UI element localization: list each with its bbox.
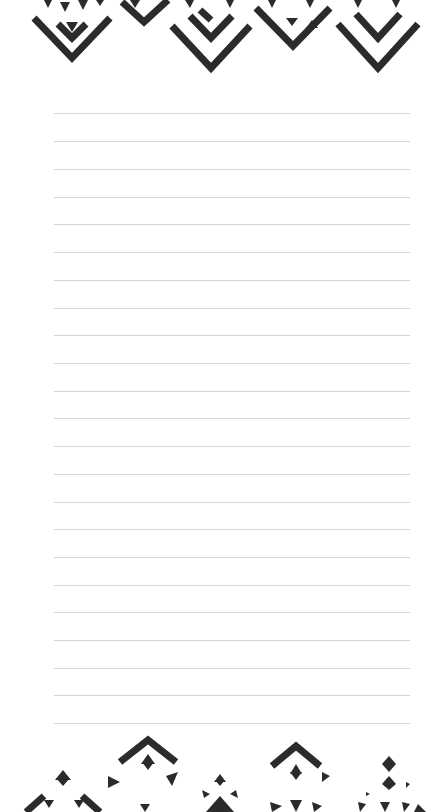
geometric-diamond-icon [0,732,445,812]
ruled-line [54,446,410,447]
ruled-line [54,668,410,669]
ruled-line [54,280,410,281]
ruled-line [54,640,410,641]
ruled-line [54,169,410,170]
ruled-line [54,529,410,530]
ruled-line [54,474,410,475]
decorative-border-bottom [0,732,445,812]
ruled-line [54,585,410,586]
ruled-line [54,557,410,558]
ruled-line [54,252,410,253]
ruled-line [54,308,410,309]
ruled-line [54,391,410,392]
ruled-line [54,502,410,503]
ruled-line [54,197,410,198]
ruled-line [54,612,410,613]
ruled-line [54,418,410,419]
ruled-line [54,141,410,142]
ruled-line [54,723,410,724]
ruled-line [54,363,410,364]
ruled-line [54,224,410,225]
ruled-line [54,113,410,114]
ruled-line [54,695,410,696]
ruled-line [54,335,410,336]
ruled-lines [0,0,445,812]
